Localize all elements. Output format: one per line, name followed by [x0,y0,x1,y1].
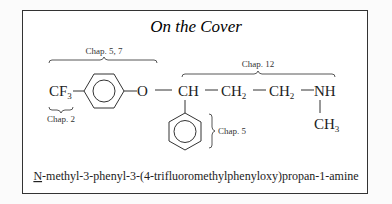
atom-ch3: CH3 [314,116,340,134]
atom-ch2-b: CH2 [269,83,294,101]
structure-diagram: On the Cover Chap. 5, 7 Chap. 12 CF3 Cha… [0,0,392,204]
benzene-ring-para [84,74,124,108]
atom-nh: NH [314,83,336,99]
atom-ch: CH [178,83,199,99]
brace-chap-12 [182,71,335,77]
atom-ch2-a: CH2 [221,83,246,101]
label-chap-5: Chap. 5 [218,126,246,136]
atom-cf3: CF3 [49,83,72,101]
benzene-ring-phenyl [169,113,201,150]
label-chap-2: Chap. 2 [47,114,75,124]
title: On the Cover [150,17,242,36]
brace-chap-2 [49,107,73,113]
compound-name: N-methyl-3-phenyl-3-(4-trifluoromethylph… [33,169,358,183]
brace-chap-5 [209,114,215,148]
brace-chap-5-7 [49,57,157,63]
atom-oxygen: O [137,83,148,99]
label-chap-5-7: Chap. 5, 7 [86,46,123,56]
label-chap-12: Chap. 12 [242,59,275,69]
